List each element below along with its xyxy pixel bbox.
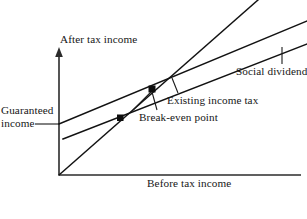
forty-five-degree-line (59, 0, 258, 175)
break-even-point-leader-secondary (133, 92, 151, 110)
break-even-point-marker (149, 86, 156, 93)
y-axis-label: After tax income (60, 33, 137, 46)
x-axis-label: Before tax income (147, 177, 231, 190)
guaranteed-income-label: Guaranteed income (1, 104, 54, 130)
data-lines-group (59, 0, 307, 175)
existing-income-tax-leader (172, 78, 178, 93)
social-dividend-label: Social dividend (236, 65, 307, 78)
guaranteed-income-label-line1: Guaranteed (1, 104, 54, 116)
income-tax-diagram: After tax income Before tax income Guara… (0, 0, 307, 219)
lower-crossing-point-marker (117, 115, 124, 122)
existing-income-tax-line (63, 44, 307, 139)
break-even-point-label: Break-even point (139, 111, 218, 124)
y-axis-arrowhead (55, 47, 63, 57)
existing-income-tax-label: Existing income tax (167, 94, 258, 107)
break-even-point-leader (152, 92, 157, 110)
guaranteed-income-label-line2: income (1, 117, 54, 130)
